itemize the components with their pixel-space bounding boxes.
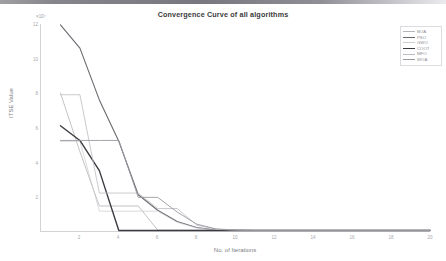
x-tick-label: 14 xyxy=(306,235,320,240)
x-tick-label: 6 xyxy=(150,235,164,240)
chart-legend[interactable]: BOAPSOGWOCOOTMFOWOA xyxy=(400,26,442,66)
x-tick-label: 16 xyxy=(345,235,359,240)
x-tick-label: 20 xyxy=(423,235,437,240)
y-tick-label: 10 xyxy=(22,56,38,61)
y-axis-exponent-label: ×10⁴ xyxy=(36,14,46,19)
legend-label: WOA xyxy=(417,57,427,63)
series-line-boa xyxy=(60,93,430,230)
series-line-mfo xyxy=(60,95,430,231)
series-line-pso xyxy=(60,25,430,231)
x-tick-label: 4 xyxy=(111,235,125,240)
y-axis-title: ITSE Value xyxy=(8,68,14,138)
x-axis-title: No. of Iterations xyxy=(40,247,430,253)
y-tick-label: 12 xyxy=(22,22,38,27)
series-line-coot xyxy=(60,126,430,231)
chart-figure: Convergence Curve of all algorithms ×10⁴… xyxy=(0,4,446,261)
x-tick-label: 8 xyxy=(189,235,203,240)
y-axis-tick-labels: 24681012 xyxy=(20,24,38,232)
legend-swatch-icon xyxy=(403,42,415,43)
x-axis-tick-labels: 2468101214161820 xyxy=(40,234,430,244)
legend-swatch-icon xyxy=(403,48,415,49)
legend-swatch-icon xyxy=(403,54,415,55)
x-tick-label: 12 xyxy=(267,235,281,240)
legend-swatch-icon xyxy=(403,37,415,38)
series-line-woa xyxy=(60,140,430,230)
plot-area xyxy=(40,24,430,232)
legend-item-woa[interactable]: WOA xyxy=(403,57,439,63)
chart-title: Convergence Curve of all algorithms xyxy=(0,10,446,19)
legend-swatch-icon xyxy=(403,31,415,32)
y-tick-label: 2 xyxy=(22,195,38,200)
y-tick-label: 4 xyxy=(22,160,38,165)
x-tick-label: 2 xyxy=(72,235,86,240)
legend-swatch-icon xyxy=(403,59,415,60)
y-tick-label: 6 xyxy=(22,126,38,131)
x-tick-label: 18 xyxy=(384,235,398,240)
y-tick-label: 8 xyxy=(22,91,38,96)
series-canvas xyxy=(41,24,430,231)
series-line-gwo xyxy=(60,141,430,230)
x-tick-label: 10 xyxy=(228,235,242,240)
